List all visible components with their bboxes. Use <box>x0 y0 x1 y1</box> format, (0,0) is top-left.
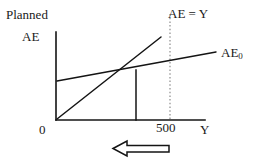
x-axis-tick-label-500: 500 <box>156 121 176 134</box>
shift-arrow-left-icon <box>113 141 169 156</box>
line-ae0-label-subscript: 0 <box>238 51 243 61</box>
keynesian-cross-figure <box>0 0 260 164</box>
line-ae0-label-text: AE <box>221 45 238 60</box>
origin-label: 0 <box>39 123 46 136</box>
figure-title-label: Planned <box>6 8 48 21</box>
line-ae0-label: AE0 <box>221 46 243 59</box>
horizontal-axis-label: Y <box>200 123 209 136</box>
line-ae-equals-y-label: AE = Y <box>168 7 208 20</box>
vertical-axis-label: AE <box>22 30 39 43</box>
